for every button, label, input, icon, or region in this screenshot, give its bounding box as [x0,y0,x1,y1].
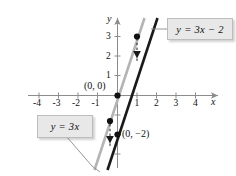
x-tick-label-minus4: -4 [33,98,41,108]
x-tick-label-minus3: -3 [53,98,61,108]
point-label-y-intercept: (0, −2) [122,128,149,139]
point-0-minus2 [114,131,120,137]
x-tick-label-3: 3 [174,98,179,108]
x-tick-label-minus1: -1 [92,98,100,108]
x-tick-label-1: 1 [135,98,140,108]
arrowhead-down-icon [133,51,141,59]
callout-label-y-equals-3x: y = 3x [37,115,93,138]
x-tick-label-4: 4 [193,98,198,108]
x-tick-label-2: 2 [154,98,159,108]
y-tick-label-2: 2 [106,51,111,61]
x-axis-label: x [211,96,215,107]
point-1-3 [134,33,140,39]
point-origin [114,92,120,98]
point-label-origin: (0, 0) [84,80,106,91]
x-tick-label-minus2: -2 [72,98,80,108]
arrowhead-down-icon-2 [106,136,114,144]
y-tick-label-3: 3 [106,31,111,41]
y-tick-label-1: 1 [106,70,111,80]
axes-group [28,18,218,168]
point-parent-lower [107,118,113,124]
callout-label-y-equals-3x-minus-2: y = 3x − 2 [167,18,233,40]
y-axis-label: y [107,13,111,24]
